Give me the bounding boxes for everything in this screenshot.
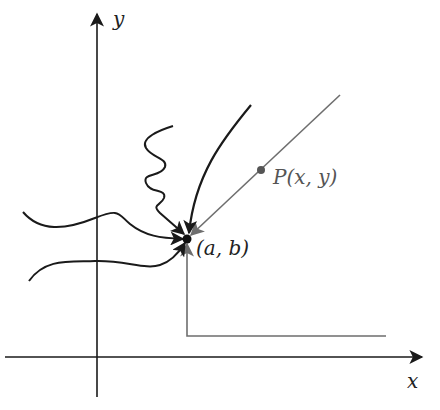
wavy-upper-path [23,212,183,239]
squiggle-path [145,126,184,234]
limit-point-dot [183,235,192,244]
moving-point-label: P(x, y) [272,165,337,189]
curve-path [189,105,251,233]
x-axis-label: x [407,369,418,393]
wavy-lower-path [29,243,185,281]
limit-point-label: (a, b) [196,236,249,260]
diagram-canvas: y x (a, b) P(x, y) [0,0,440,410]
y-axis-label: y [112,7,125,31]
moving-point-dot [257,166,265,174]
